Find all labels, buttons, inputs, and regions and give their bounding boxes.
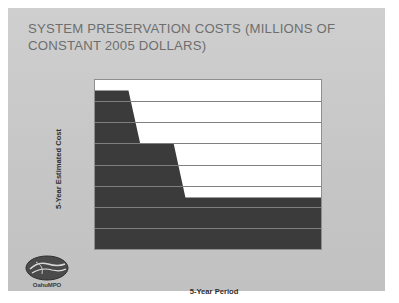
y-axis-tick-mark [94,80,95,81]
y-axis-tick-mark [94,143,95,144]
y-axis-tick-mark [94,122,95,123]
y-axis-tick-mark [94,249,95,250]
y-axis-tick-mark [94,101,95,102]
x-axis-tick-mark [140,249,141,250]
gridline [95,143,321,144]
y-axis-tick-mark [94,164,95,165]
gridline [95,101,321,102]
chart-container: 5-Year Estimated Cost $0$50$100$150$200$… [66,71,362,267]
y-axis-tick-mark [94,227,95,228]
gridline [95,228,321,229]
gridline [95,165,321,166]
x-axis-tick-mark [185,249,186,250]
gridline [95,186,321,187]
gridline [95,122,321,123]
x-axis-title: 5-Year Period [190,287,239,296]
plot-area: $0$50$100$150$200$250$300$350$4002006-20… [94,79,322,250]
gridline [95,207,321,208]
y-axis-tick-mark [94,206,95,207]
slide-canvas: SYSTEM PRESERVATION COSTS (MILLIONS OF C… [8,8,385,291]
x-axis-tick-mark [276,249,277,250]
oahu-mpo-logo: OahuMPO [22,255,72,295]
y-axis-title: 5-Year Estimated Cost [54,129,63,209]
globe-icon [22,255,72,283]
logo-text: OahuMPO [22,282,72,288]
x-axis-tick-mark [231,249,232,250]
slide-title: SYSTEM PRESERVATION COSTS (MILLIONS OF C… [28,20,358,54]
y-axis-tick-mark [94,185,95,186]
